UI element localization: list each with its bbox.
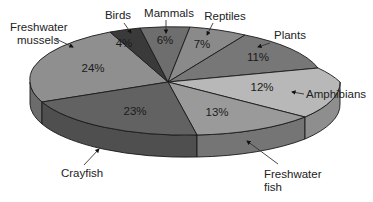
pie-chart: 4% 6% 7% 11% 12% 13% 23% 24% Birds Mamma… [0, 0, 373, 202]
leader-crayfish [84, 149, 99, 165]
label-amphibians: Amphibians [306, 88, 366, 100]
pct-freshwater-mussels: 24% [81, 62, 104, 74]
label-freshwater-fish-line1: Freshwater [264, 168, 322, 180]
pct-reptiles: 7% [194, 38, 211, 50]
pct-plants: 11% [247, 51, 269, 63]
label-freshwater-mussels-line1: Freshwater [10, 21, 68, 33]
label-freshwater-fish: Freshwater fish [264, 168, 322, 193]
label-birds: Birds [105, 9, 131, 21]
label-crayfish: Crayfish [61, 167, 103, 179]
pct-mammals: 6% [157, 34, 174, 46]
label-freshwater-mussels: Freshwater mussels [10, 21, 68, 46]
pct-amphibians: 12% [250, 81, 273, 93]
label-freshwater-fish-line2: fish [264, 181, 282, 193]
label-mammals: Mammals [144, 7, 194, 19]
label-freshwater-mussels-line2: mussels [17, 34, 59, 46]
pct-birds: 4% [116, 37, 133, 49]
pct-freshwater-fish: 13% [205, 106, 228, 118]
label-reptiles: Reptiles [204, 10, 246, 22]
pie-top [30, 27, 340, 135]
label-plants: Plants [274, 29, 306, 41]
pct-crayfish: 23% [123, 105, 146, 117]
